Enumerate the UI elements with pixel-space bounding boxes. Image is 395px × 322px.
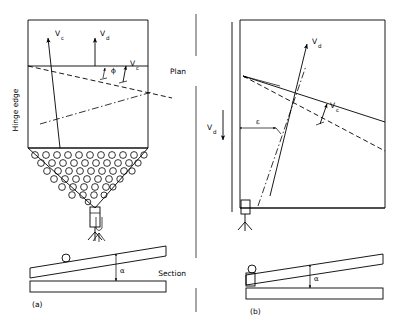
panel-a-label: (a) [32,300,43,309]
panel-a-vc-upper-subscript: c [61,35,64,41]
panel-a-vector-vc-lower: V c [119,59,139,83]
panel-b-hinge-edge-lines [232,20,240,212]
panel-b-plan-outline [240,20,385,208]
panel-b-motion-axis [258,66,306,206]
panel-a-angle-alpha: α [116,257,125,281]
panel-b-vector-vc: V c [316,101,339,125]
panel-b-plan: V d V c ε V d P [170,20,385,231]
panel-b-section: α Section (b) [158,254,383,316]
panel-b-alpha-label: α [314,275,319,283]
panel-a-vector-vc-upper: V c [48,29,64,148]
section-label: Section [158,269,186,278]
panel-a-base-beam [30,281,166,292]
figure-container: V c V d ϕ V c [0,0,395,322]
panel-a-inclined-deck [30,246,166,278]
hopper-material-circles [32,152,148,205]
panel-b-epsilon-label: ε [256,118,260,126]
panel-a-phi-label: ϕ [111,67,116,75]
panel-b-trajectory-dashed [243,76,385,151]
panel-a-vc-lower-subscript: c [136,65,139,71]
panel-b-base-beam [246,288,383,299]
panel-a-vector-vd: V d [95,29,110,66]
panel-a-angle-phi: ϕ [100,67,116,80]
panel-a-plan-outline [28,20,148,148]
panel-a-vd-subscript: d [106,35,110,41]
panel-b-angle-alpha: α [310,268,319,288]
panel-b-deck-pivot [248,265,256,273]
hopper-outlet-spout [90,207,100,227]
panel-a-hopper [28,148,148,241]
panel-a-trajectory-dashed [28,66,172,98]
panel-a-alpha-label: α [120,267,125,275]
panel-b-vd-outside-subscript: d [213,129,217,135]
panel-b-vector-vd-outside: V d [207,110,223,140]
panel-a-deck-pivot [62,254,70,262]
panel-b-hinge-fan [243,76,280,86]
panel-a-section: α (a) [30,217,166,309]
hinge-edge-label: Hinge edge [11,88,20,131]
panel-b-trajectory-upper [243,76,385,122]
panel-b-vc-subscript: c [336,107,339,113]
panel-b-vector-vd: V d [270,37,322,196]
engineering-diagram-svg: V c V d ϕ V c [0,0,395,322]
panel-a-plan: V c V d ϕ V c [11,20,172,241]
plan-label: Plan [170,67,186,76]
panel-b-angle-epsilon: ε [243,118,281,134]
panel-b-label: (b) [250,307,261,316]
panel-b-vd-subscript: d [318,43,322,49]
